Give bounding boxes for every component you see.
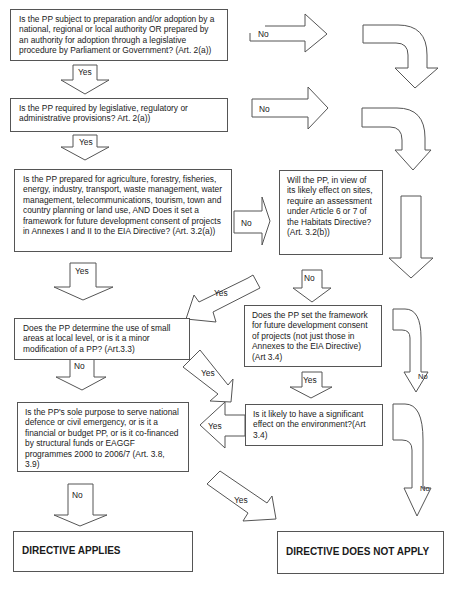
curved-arrow-down-icon bbox=[362, 108, 431, 170]
question-box-q8: Is the PP's sole purpose to serve nation… bbox=[17, 402, 189, 472]
question-text: Is the PP required by legislative, regul… bbox=[19, 103, 188, 123]
question-text: Does the PP set the framework for future… bbox=[252, 310, 368, 362]
curved-arrow-down-icon bbox=[363, 25, 438, 88]
question-box-q5: Does the PP determine the use of small a… bbox=[14, 318, 190, 360]
label-q7-no: No bbox=[420, 484, 430, 494]
question-box-q7: Is it likely to have a significant effec… bbox=[245, 404, 383, 446]
arrow-down-icon bbox=[389, 196, 433, 278]
arrow-left-icon bbox=[200, 402, 245, 448]
label-q8-yes: Yes bbox=[234, 495, 248, 505]
question-box-q1: Is the PP subject to preparation and/or … bbox=[10, 9, 228, 61]
label-q5-yes: Yes bbox=[201, 368, 215, 378]
outcome-directive-applies: DIRECTIVE APPLIES bbox=[13, 531, 193, 572]
question-text: Is the PP's sole purpose to serve nation… bbox=[25, 407, 179, 469]
label-q7-yes: Yes bbox=[208, 421, 222, 431]
label-q6-yes: Yes bbox=[303, 375, 317, 385]
outcome-text: DIRECTIVE APPLIES bbox=[22, 546, 121, 556]
outcome-directive-does-not-apply: DIRECTIVE DOES NOT APPLY bbox=[277, 531, 444, 574]
label-q3-no: No bbox=[241, 218, 252, 228]
label-q3-yes: Yes bbox=[75, 266, 89, 276]
label-q1-no: No bbox=[258, 29, 269, 39]
label-q1-yes: Yes bbox=[78, 67, 92, 77]
question-text: Will the PP, in view of its likely effec… bbox=[287, 175, 373, 237]
question-text: Is it likely to have a significant effec… bbox=[253, 409, 366, 440]
curved-arrow-down-icon bbox=[393, 404, 431, 516]
label-q2-yes: Yes bbox=[79, 137, 93, 147]
question-box-q6: Does the PP set the framework for future… bbox=[244, 305, 382, 367]
question-box-q2: Is the PP required by legislative, regul… bbox=[10, 98, 228, 132]
label-q6-no: No bbox=[418, 372, 428, 382]
label-q8-no: No bbox=[72, 490, 83, 500]
outcome-text: DIRECTIVE DOES NOT APPLY bbox=[286, 547, 429, 557]
question-text: Is the PP prepared for agriculture, fore… bbox=[23, 174, 222, 236]
arrow-right-icon bbox=[234, 197, 270, 245]
question-box-q4: Will the PP, in view of its likely effec… bbox=[279, 170, 383, 255]
question-box-q3: Is the PP prepared for agriculture, fore… bbox=[14, 169, 232, 252]
label-q4-yes: Yes bbox=[214, 288, 228, 298]
question-text: Does the PP determine the use of small a… bbox=[23, 323, 170, 354]
question-text: Is the PP subject to preparation and/or … bbox=[19, 14, 214, 55]
label-q5-no: No bbox=[74, 361, 85, 371]
label-q2-no: No bbox=[259, 104, 270, 114]
label-q4-no: No bbox=[304, 273, 315, 283]
